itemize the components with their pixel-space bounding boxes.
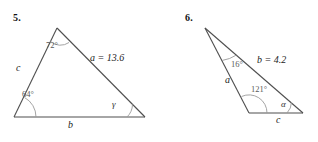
side-label-b: b xyxy=(68,120,73,130)
side-label-c: c xyxy=(276,115,280,125)
figure-6: 6. 16° 121° α a c b = 4.2 xyxy=(158,0,318,142)
triangle-6-bottom-left-arc xyxy=(242,95,268,113)
angle-label-16: 16° xyxy=(231,60,243,69)
triangle-5-bottom-left-arc xyxy=(25,98,37,118)
side-label-c: c xyxy=(16,63,20,73)
triangle-6-side-a-line xyxy=(205,28,249,113)
triangle-5-drawing xyxy=(0,0,160,142)
side-label-a: a xyxy=(225,75,230,85)
triangle-5-bottom-right-arc xyxy=(127,105,133,118)
angle-label-alpha: α xyxy=(281,100,286,109)
figure-5: 5. 72° 64° γ c b a = 13.6 xyxy=(0,0,160,142)
angle-label-121: 121° xyxy=(251,85,267,94)
triangle-6-bottom-right-arc xyxy=(287,102,292,113)
triangle-6-drawing xyxy=(158,0,318,142)
angle-label-72: 72° xyxy=(46,41,58,50)
angle-label-gamma: γ xyxy=(112,100,116,109)
triangle-5-side-a-line xyxy=(57,28,145,117)
triangle-6-side-b-line xyxy=(205,28,303,113)
side-label-a-value: a = 13.6 xyxy=(90,53,124,63)
side-label-b-value: b = 4.2 xyxy=(257,55,286,65)
angle-label-64: 64° xyxy=(22,90,34,99)
worksheet-page: 5. 72° 64° γ c b a = 13.6 xyxy=(0,0,318,142)
